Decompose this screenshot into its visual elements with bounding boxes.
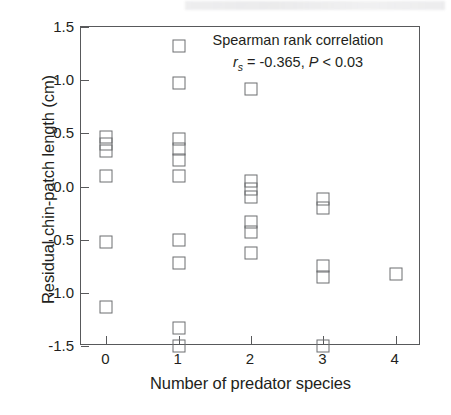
- p-value: < 0.03: [322, 54, 363, 70]
- scatter-plot-figure: Residual chin-patch length (cm) Number o…: [0, 0, 451, 415]
- x-tick: [251, 336, 252, 344]
- y-tick-label: 0.5: [53, 124, 74, 141]
- y-tick: [81, 346, 89, 347]
- data-point: [317, 270, 330, 283]
- annotation-line-2: rs = -0.365, P < 0.03: [182, 52, 414, 75]
- y-tick: [81, 27, 89, 28]
- data-point: [172, 169, 185, 182]
- x-tick-label: 2: [246, 350, 254, 367]
- annotation-line-1: Spearman rank correlation: [182, 30, 414, 51]
- x-tick-label: 3: [318, 350, 326, 367]
- data-point: [389, 267, 402, 280]
- y-tick: [81, 80, 89, 81]
- data-point: [245, 247, 258, 260]
- data-point: [245, 191, 258, 204]
- y-tick-label: 0.0: [53, 177, 74, 194]
- y-tick-label: -0.5: [48, 230, 74, 247]
- x-tick: [396, 336, 397, 344]
- data-point: [172, 77, 185, 90]
- data-point: [172, 257, 185, 270]
- data-point: [317, 201, 330, 214]
- y-tick: [81, 240, 89, 241]
- page-header-artifact: [185, 1, 445, 10]
- y-tick-label: -1.5: [48, 337, 74, 354]
- y-tick-label: 1.0: [53, 71, 74, 88]
- data-point: [245, 226, 258, 239]
- data-point: [245, 82, 258, 95]
- data-point: [172, 321, 185, 334]
- data-point: [172, 233, 185, 246]
- spearman-annotation: Spearman rank correlation rs = -0.365, P…: [182, 30, 414, 75]
- data-point: [100, 169, 113, 182]
- data-point: [100, 235, 113, 248]
- data-point: [172, 153, 185, 166]
- x-axis-title: Number of predator species: [80, 374, 421, 393]
- y-tick: [81, 133, 89, 134]
- y-tick-label: 1.5: [53, 18, 74, 35]
- y-tick: [81, 187, 89, 188]
- statistic-subscript: s: [238, 61, 243, 73]
- y-tick-label: -1.0: [48, 283, 74, 300]
- x-tick-label: 0: [101, 350, 109, 367]
- p-symbol: P: [309, 54, 319, 70]
- y-tick: [81, 293, 89, 294]
- data-point: [100, 300, 113, 313]
- x-tick: [106, 336, 107, 344]
- x-tick-label: 4: [391, 350, 399, 367]
- x-tick-label: 1: [173, 350, 181, 367]
- data-point: [100, 145, 113, 158]
- statistic-value: = -0.365,: [247, 54, 305, 70]
